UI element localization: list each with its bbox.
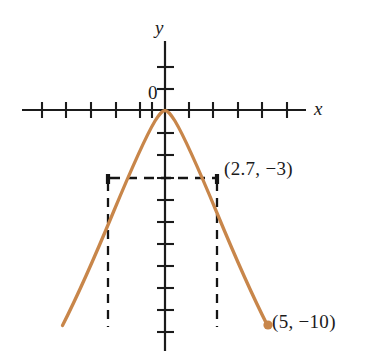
point-label-2p7-minus3: (2.7, −3) — [224, 159, 293, 178]
parabola-plot — [0, 0, 381, 357]
x-axis-label: x — [314, 99, 322, 118]
figure-canvas: y x 0 (2.7, −3) (5, −10) — [0, 0, 381, 357]
y-axis-label: y — [155, 18, 163, 37]
point-label-5-minus10: (5, −10) — [272, 312, 336, 331]
origin-label: 0 — [148, 83, 158, 102]
axis-group — [22, 41, 306, 351]
